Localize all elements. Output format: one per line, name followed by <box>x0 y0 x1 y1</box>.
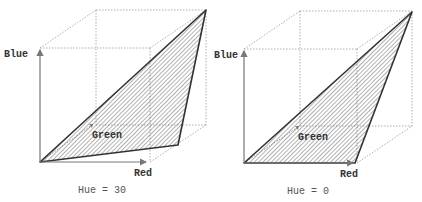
red-axis-label: Red <box>340 169 358 180</box>
red-axis-label: Red <box>134 168 152 179</box>
hue-diagram: Blue Green Red Hue = 30 Blue Green Red H… <box>0 0 422 202</box>
hue-triangle <box>40 10 206 162</box>
panel-caption: Hue = 30 <box>78 185 126 196</box>
blue-axis-label: Blue <box>214 50 238 61</box>
panel-hue-30: Blue Green Red Hue = 30 <box>4 10 206 196</box>
green-axis-label: Green <box>92 130 122 141</box>
green-axis-label: Green <box>298 132 328 143</box>
panel-hue-0: Blue Green Red Hue = 0 <box>214 11 412 197</box>
blue-axis-label: Blue <box>4 49 28 60</box>
panel-caption: Hue = 0 <box>287 186 329 197</box>
